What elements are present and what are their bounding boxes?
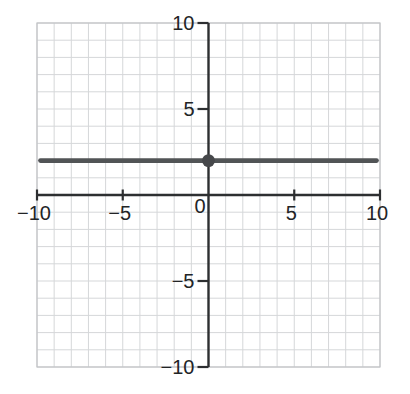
y-tick-label: 5 [183, 98, 194, 120]
y-tick-label: −10 [161, 356, 195, 378]
x-tick-label: 5 [286, 202, 297, 224]
graph-figure: −10−5510−10−55100 [0, 0, 410, 394]
x-tick-label: 10 [366, 202, 388, 224]
coordinate-plane: −10−5510−10−55100 [0, 0, 410, 394]
origin-label: 0 [194, 195, 205, 217]
y-tick-label: 10 [172, 12, 194, 34]
x-tick-label: −5 [108, 202, 131, 224]
y-tick-label: −5 [172, 270, 195, 292]
x-tick-label: −10 [17, 202, 51, 224]
plotted-point[interactable] [202, 154, 215, 167]
